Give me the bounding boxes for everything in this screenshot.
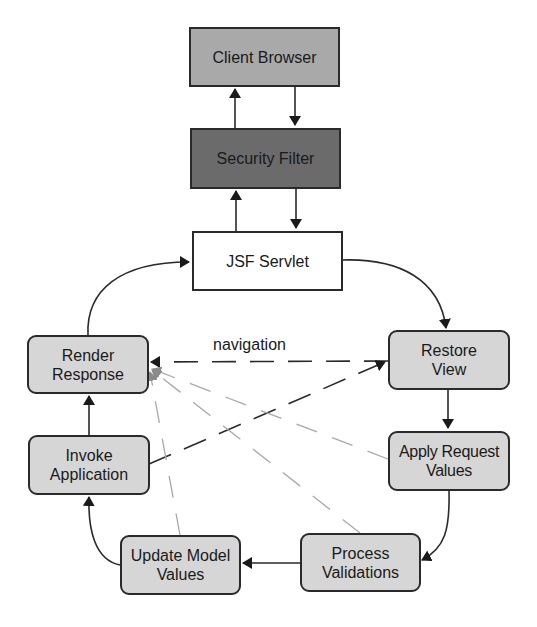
edge-render-to-servlet <box>88 262 189 335</box>
node-label: Security Filter <box>217 149 315 168</box>
edge-label-navigation: navigation <box>213 336 286 354</box>
node-client-browser: Client Browser <box>189 27 340 87</box>
edge-navigation-dashed <box>151 361 388 362</box>
node-restore-view: Restore View <box>388 330 510 390</box>
node-apply-request-values: Apply Request Values <box>388 431 510 491</box>
node-security-filter: Security Filter <box>190 128 341 189</box>
edge-update-to-render-gray <box>150 372 180 535</box>
node-process-validations: Process Validations <box>300 533 421 592</box>
edge-process-to-render-gray <box>152 370 360 533</box>
diagram-edges <box>0 0 537 627</box>
node-update-model-values: Update Model Values <box>120 535 241 595</box>
node-label: Invoke Application <box>40 446 138 484</box>
node-render-response: Render Response <box>27 335 149 394</box>
node-label: Restore View <box>420 341 478 379</box>
node-label: Client Browser <box>212 48 316 67</box>
node-jsf-servlet: JSF Servlet <box>192 231 343 291</box>
edge-update-to-invoke <box>89 497 120 565</box>
node-label: Update Model Values <box>124 546 237 584</box>
node-label: JSF Servlet <box>226 252 309 271</box>
edge-apply-to-process <box>422 490 449 560</box>
edge-apply-to-render-gray <box>152 369 388 459</box>
node-label: Render Response <box>47 346 129 384</box>
node-label: Process Validations <box>310 544 411 582</box>
edge-servlet-to-restore <box>342 260 446 328</box>
node-label: Apply Request Values <box>392 442 506 480</box>
node-invoke-application: Invoke Application <box>28 435 150 495</box>
